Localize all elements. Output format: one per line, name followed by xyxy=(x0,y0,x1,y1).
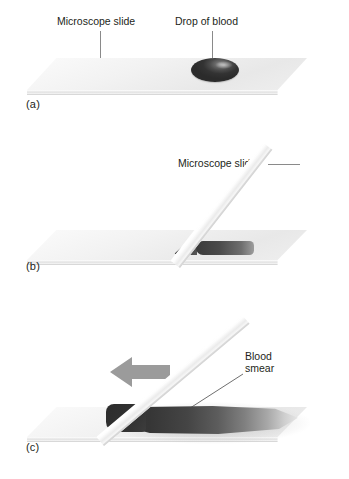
slide-base-edge-b xyxy=(27,264,307,265)
microscope-slide-b-base xyxy=(27,230,307,260)
panel-a: Microscope slide Drop of blood (a) xyxy=(0,0,349,125)
blood-drop-highlight xyxy=(215,61,233,69)
panel-c: Blood smear (c) xyxy=(0,290,349,479)
callout-drop-of-blood: Drop of blood xyxy=(175,15,238,27)
leader-line-microscope-slide-b xyxy=(268,164,300,165)
slide-base-edge-a xyxy=(27,94,307,95)
slide-top-surface-a xyxy=(27,58,307,90)
slide-front-edge-b xyxy=(27,260,307,264)
callout-blood-smear-line1: Blood xyxy=(245,350,272,362)
callout-microscope-slide-a: Microscope slide xyxy=(57,15,135,27)
panel-b: Microscope slide (b) xyxy=(0,125,349,290)
callout-blood-smear-line2: smear xyxy=(245,362,274,374)
panel-label-b: (b) xyxy=(26,260,40,272)
panel-label-c: (c) xyxy=(26,441,39,453)
blood-pool-b xyxy=(196,241,254,255)
callout-blood-smear: Blood smear xyxy=(245,350,291,374)
panel-label-a: (a) xyxy=(26,98,40,110)
slide-front-edge-a xyxy=(27,90,307,94)
leader-line-drop-of-blood xyxy=(212,31,213,61)
slide-top-surface-b xyxy=(27,230,307,260)
microscope-slide-a xyxy=(27,58,307,90)
blood-drop xyxy=(191,58,239,82)
